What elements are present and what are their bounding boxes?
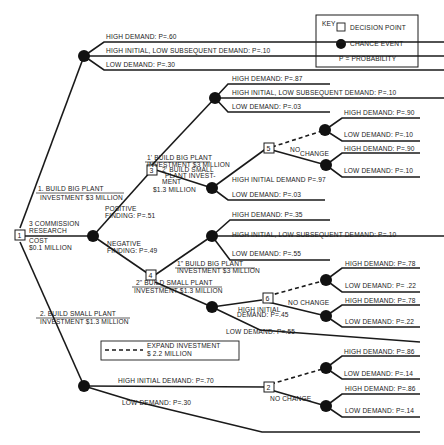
small-plant-label: 2. BUILD SMALL PLANT	[40, 310, 116, 317]
outcome-label: LOW DEMAND: P=.22	[345, 318, 414, 325]
outcome-label: LOW DEMAND: P=.10	[344, 167, 413, 174]
svg-text:5: 5	[267, 145, 271, 152]
branch-positive-finding	[93, 170, 152, 236]
chance-node	[320, 159, 332, 171]
neg-small-plant-investment: INVESTMENT $1.3 MILLION	[134, 287, 223, 294]
outcome-line	[325, 118, 420, 130]
small-plant-investment: INVESTMENT $1.3 MILLION	[40, 318, 129, 325]
research-label-2: RESEARCH	[29, 227, 67, 234]
high-initial-label: HIGH INITIAL DEMAND P=.97	[232, 176, 326, 183]
key-legend: KEY DECISION POINT CHANCE EVENT P = PROB…	[316, 15, 418, 67]
research-cost-label: COST	[29, 237, 48, 244]
expand-dashed-branch	[268, 280, 326, 296]
chance-node	[320, 274, 332, 286]
outcome-label: HIGH DEMAND: P=.86	[345, 385, 416, 392]
key-title: KEY	[322, 20, 336, 27]
outcome-label: LOW DEMAND: P=.14	[344, 370, 413, 377]
outcome-label: LOW DEMAND: P=.55	[232, 250, 301, 257]
outcome-label: LOW DEMAND: P=.03	[232, 103, 301, 110]
outcome-label: HIGH DEMAND: P=.86	[344, 348, 415, 355]
positive-finding-label: POSITIVE	[105, 205, 137, 212]
outcome-label: HIGH DEMAND: P=.78	[345, 260, 416, 267]
research-chance-node	[87, 230, 99, 242]
outcome-label: HIGH INITIAL, LOW SUBSEQUENT DEMAND: P=.…	[232, 231, 396, 239]
outcome-label: HIGH INITIAL, LOW SUBSEQUENT DEMAND: P=.…	[232, 89, 396, 97]
expand-legend-label: EXPAND INVESTMENT	[147, 342, 221, 349]
expand-legend-amount: $ 2.2 MILLION	[147, 350, 192, 357]
chance-node	[320, 362, 332, 374]
key-chance-label: CHANCE EVENT	[350, 40, 403, 47]
expand-dashed-branch	[271, 368, 326, 384]
chance-node	[78, 50, 90, 62]
chance-node	[209, 92, 221, 104]
big-plant-label: 1. BUILD BIG PLANT	[38, 185, 104, 192]
chance-node	[206, 182, 218, 194]
no-change-label-2: CHANGE	[300, 150, 330, 157]
high-initial-label: HIGH INITIAL DEMAND: P=.70	[118, 377, 214, 384]
svg-text:6: 6	[266, 295, 270, 302]
no-change-label: NO CHANGE	[270, 395, 312, 402]
outcome-label: LOW DEMAND: P=.14	[345, 407, 414, 414]
svg-text:1: 1	[18, 232, 22, 239]
research-label-1: 3 COMMISSION	[29, 220, 80, 227]
no-change-label: NO CHANGE	[288, 299, 330, 306]
chance-node	[320, 400, 332, 412]
decision-tree-diagram: KEY DECISION POINT CHANCE EVENT P = PROB…	[0, 0, 444, 445]
outcome-label: LOW DEMAND: P=.30	[122, 399, 191, 406]
decision-node-5: 5	[264, 143, 274, 153]
neg-big-plant-label: 1" BUILD BIG PLANT	[177, 260, 243, 267]
neg-big-plant-investment: INVESTMENT $3 MILLION	[177, 267, 260, 274]
big-plant-investment: INVESTMENT $3 MILLION	[40, 194, 123, 201]
chance-event-icon	[336, 39, 346, 49]
pos-small-plant-label-3: MENT	[162, 178, 181, 185]
chance-node	[320, 310, 332, 322]
chance-node	[78, 380, 90, 392]
outcome-label: LOW DEMAND: P=.10	[344, 131, 413, 138]
outcome-label: LOW DEMAND: P= .22	[345, 282, 416, 289]
outcome-label: HIGH DEMAND: P=.78	[345, 297, 416, 304]
decision-node-1: 1	[15, 230, 25, 240]
decision-point-icon	[337, 23, 345, 31]
chance-node	[319, 124, 331, 136]
key-decision-label: DECISION POINT	[350, 24, 406, 31]
pos-small-plant-investment: $1.3 MILLION	[153, 186, 196, 193]
negative-finding-prob: FINDING: P=.49	[107, 247, 157, 254]
outcome-label: HIGH DEMAND: P=.87	[232, 75, 303, 82]
decision-node-6: 6	[263, 293, 273, 303]
outcome-label: LOW DEMAND: P=.03	[232, 191, 301, 198]
svg-text:3: 3	[150, 167, 154, 174]
outcome-line	[326, 153, 420, 165]
outcome-line	[326, 305, 420, 316]
branch-build-big-plant	[20, 56, 84, 228]
high-initial-prob: DEMAND: P=.45	[237, 311, 289, 318]
svg-text:4: 4	[149, 272, 153, 279]
outcome-line	[326, 356, 420, 368]
svg-text:2: 2	[267, 384, 271, 391]
outcome-label: HIGH DEMAND: P=.90	[344, 145, 415, 152]
outcome-label: HIGH DEMAND: P=.60	[106, 33, 177, 40]
outcome-label: LOW DEMAND: P=.55	[226, 328, 295, 335]
outcome-line	[326, 268, 420, 280]
outcome-label: HIGH INITIAL, LOW SUBSEQUENT DEMAND: P=.…	[106, 47, 270, 55]
pos-big-plant-label: 1' BUILD BIG PLANT	[147, 154, 212, 161]
negative-finding-label: NEGATIVE	[107, 240, 142, 247]
no-change-label: NO	[290, 146, 300, 153]
outcome-label: LOW DEMAND: P=.30	[106, 61, 175, 68]
expand-investment-legend: EXPAND INVESTMENT $ 2.2 MILLION	[101, 341, 239, 360]
expand-dashed-branch	[272, 130, 325, 147]
outcome-label: HIGH DEMAND: P=.35	[232, 211, 303, 218]
chance-node	[206, 301, 218, 313]
outcome-line	[326, 394, 420, 406]
research-cost-value: $0.1 MILLION	[29, 244, 72, 251]
neg-small-plant-label: 2" BUILD SMALL PLANT	[136, 279, 213, 286]
branch-high-initial	[84, 386, 266, 387]
decision-node-2: 2	[264, 382, 274, 392]
positive-finding-prob: FINDING: P=.51	[105, 212, 155, 219]
outcome-label: HIGH DEMAND: P=.90	[344, 109, 415, 116]
chance-node	[206, 230, 218, 242]
